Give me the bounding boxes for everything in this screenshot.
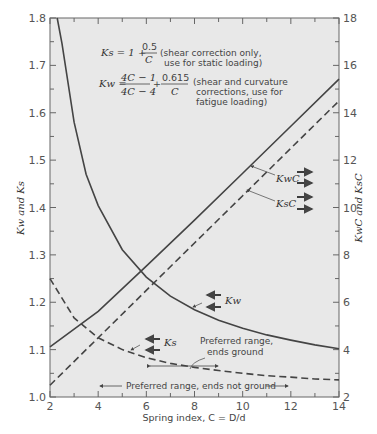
- kw-denominator2: C: [171, 86, 179, 97]
- tick-label: 1.6: [29, 107, 47, 120]
- tick-label: 1.1: [29, 344, 47, 357]
- kwc-label: KwC: [275, 173, 300, 184]
- pref-ground-line1: Preferred range,: [200, 336, 273, 346]
- ks-denominator: C: [145, 54, 153, 65]
- kw-numerator1: 4C − 1: [120, 72, 156, 83]
- tick-label: 12: [343, 154, 357, 167]
- tick-label: 2: [343, 391, 350, 404]
- tick-label: 8: [343, 249, 350, 262]
- pref-not-ground-text: Preferred range, ends not ground: [126, 381, 276, 391]
- tick-label: 1.0: [29, 391, 47, 404]
- ks-label: Ks: [163, 337, 177, 348]
- ks-note-line1: (shear correction only,: [160, 48, 262, 58]
- tick-label: 4: [343, 344, 350, 357]
- tick-label: 14: [343, 107, 357, 120]
- kw-denominator1: 4C − 4: [120, 86, 156, 97]
- tick-label: 1.8: [29, 12, 47, 25]
- tick-label: 1.2: [29, 296, 47, 309]
- tick-label: 12: [284, 400, 298, 413]
- tick-label: 16: [343, 59, 357, 72]
- tick-label: 1.3: [29, 249, 47, 262]
- y-left-axis-title: Kw and Ks: [15, 181, 26, 236]
- ks-numerator: 0.5: [142, 41, 157, 52]
- ks-formula-lhs: Ks = 1 +: [100, 47, 146, 58]
- spring-correction-chart: 24681012141.01.11.21.31.41.51.61.71.8246…: [0, 0, 377, 434]
- tick-label: 1.5: [29, 154, 47, 167]
- x-axis-title: Spring index, C = D/d: [143, 412, 246, 423]
- pref-ground-line2: ends ground: [207, 347, 263, 357]
- ksc-label: KsC: [275, 198, 297, 209]
- kw-plus: +: [153, 78, 161, 89]
- tick-label: 1.4: [29, 202, 47, 215]
- tick-label: 4: [95, 400, 102, 413]
- preferred-range-ends-not-ground: Preferred range, ends not ground: [100, 381, 288, 391]
- kw-numerator2: 0.615: [162, 72, 189, 83]
- tick-label: 1.7: [29, 59, 47, 72]
- ks-note-line2: use for static loading): [164, 58, 262, 68]
- tick-label: 6: [343, 296, 350, 309]
- kw-label: Kw: [224, 295, 241, 306]
- y-right-axis-title: KwC and KsC: [353, 173, 364, 243]
- kw-note-line2: corrections, use for: [196, 87, 283, 97]
- kw-note-line3: fatigue loading): [196, 97, 267, 107]
- tick-label: 2: [47, 400, 54, 413]
- tick-label: 18: [343, 12, 357, 25]
- kw-note-line1: (shear and curvature: [193, 77, 288, 87]
